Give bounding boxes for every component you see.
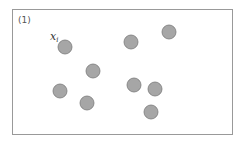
data-point-circle <box>148 82 162 96</box>
data-point-circle <box>162 25 176 39</box>
point-label-subscript: i <box>56 36 58 44</box>
data-point-circle <box>124 35 138 49</box>
data-point-circle <box>80 96 94 110</box>
data-point-circle <box>58 40 72 54</box>
point-scatter-diagram: (1) xi <box>0 0 242 144</box>
data-point-circle <box>127 78 141 92</box>
data-point-circle <box>144 105 158 119</box>
diagram-frame <box>13 10 233 135</box>
data-point-circle <box>86 64 100 78</box>
panel-label: (1) <box>18 15 31 25</box>
data-point-circle <box>53 84 67 98</box>
